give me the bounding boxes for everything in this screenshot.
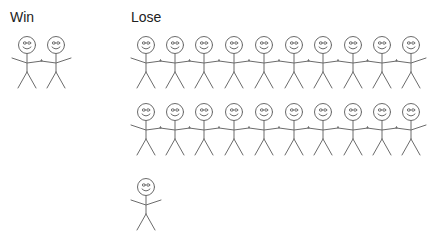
lose-row2-figure [189,104,219,156]
head-icon [138,104,155,121]
held-hands [189,127,190,129]
lose-row2-figure [279,104,309,156]
lose-row2-figure [249,104,279,156]
head-icon [226,37,243,54]
head-icon [286,37,303,54]
held-hands [367,60,368,62]
lose-row1-figure [219,37,249,89]
win-figure [41,37,71,89]
held-hands [308,127,309,129]
head-icon [138,37,155,54]
head-icon [374,37,391,54]
held-hands [189,60,190,62]
head-icon [256,37,273,54]
head-icon [403,37,420,54]
lose-row2-figure [396,104,426,156]
lose-row1-figure [396,37,426,89]
lose-row1-figure [279,37,309,89]
held-hands [160,127,161,129]
lose-row2-figure [338,104,368,156]
head-icon [315,37,332,54]
head-icon [167,37,184,54]
lose-row1-figure [338,37,368,89]
stick-figure-diagram [0,0,439,241]
held-hands [160,60,161,62]
head-icon [374,104,391,121]
lose-row2-figure [131,104,161,156]
held-hands [308,60,309,62]
head-icon [196,37,213,54]
lose-row2-figure [219,104,249,156]
lose-row2-figure [308,104,338,156]
head-icon [256,104,273,121]
head-icon [19,37,36,54]
lose-single-figure [131,179,161,231]
head-icon [345,37,362,54]
held-hands [396,127,397,129]
head-icon [315,104,332,121]
lose-row2-figure [160,104,190,156]
lose-row1-figure [367,37,397,89]
lose-row1-figure [131,37,161,89]
lose-row1-figure [160,37,190,89]
held-hands [367,127,368,129]
head-icon [226,104,243,121]
held-hands [41,60,42,62]
held-hands [396,60,397,62]
head-icon [138,179,155,196]
lose-row1-figure [189,37,219,89]
lose-row1-figure [249,37,279,89]
lose-row2-figure [367,104,397,156]
head-icon [345,104,362,121]
lose-row1-figure [308,37,338,89]
win-figure [12,37,42,89]
head-icon [403,104,420,121]
head-icon [196,104,213,121]
head-icon [286,104,303,121]
head-icon [48,37,65,54]
head-icon [167,104,184,121]
